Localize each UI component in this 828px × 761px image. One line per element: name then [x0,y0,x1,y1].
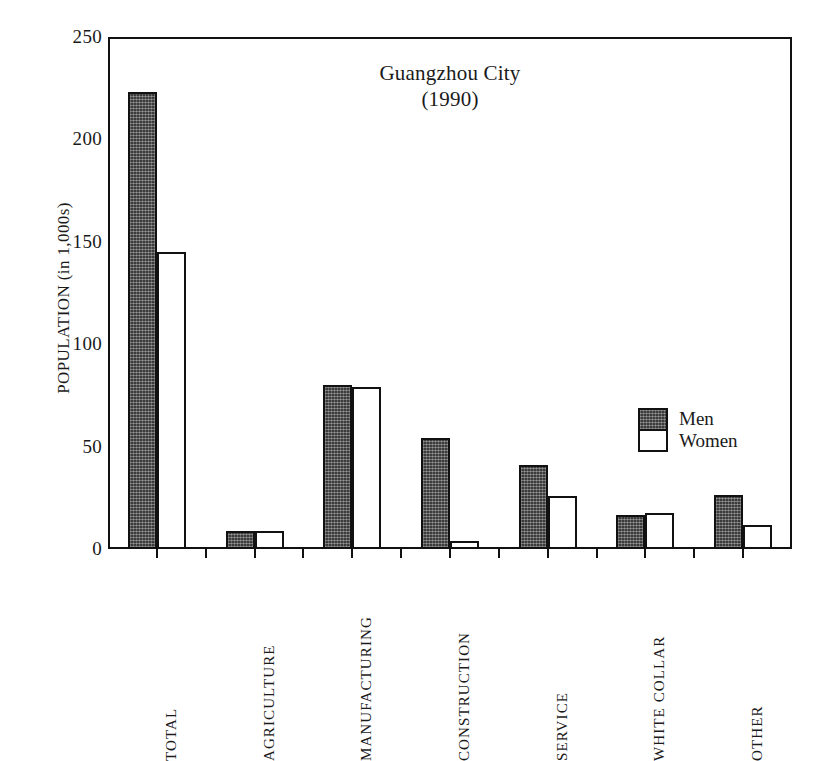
x-tick-mark [254,549,256,558]
bar-service-women [548,496,577,549]
x-axis-labels: TOTALAGRICULTUREMANUFACTURINGCONSTRUCTIO… [108,561,792,711]
legend-item-men: Men [638,408,738,430]
legend-label-men: Men [679,408,714,430]
x-axis-label-other: OTHER [749,561,766,761]
x-tick-mark-separator [498,549,500,558]
y-tick-label: 100 [56,334,102,353]
x-tick-mark [547,549,549,558]
bar-manufacturing-men [323,385,352,549]
y-tick-label: 250 [56,27,102,46]
x-axis-label-construction: CONSTRUCTION [456,561,473,761]
x-axis-label-total: TOTAL [163,561,180,761]
bar-white-collar-men [616,515,645,549]
bar-manufacturing-women [352,387,381,549]
bar-total-men [128,92,157,549]
bar-construction-men [421,438,450,549]
y-tick-label: 150 [56,232,102,251]
bar-service-men [519,465,548,549]
x-tick-mark [351,549,353,558]
x-tick-mark-separator [400,549,402,558]
bars-layer [108,37,792,549]
x-tick-mark-separator [596,549,598,558]
x-tick-mark-separator [693,549,695,558]
x-tick-mark [156,549,158,558]
y-tick-label: 200 [56,129,102,148]
bar-white-collar-women [645,513,674,549]
bar-agriculture-women [255,531,284,549]
x-tick-mark [449,549,451,558]
bar-other-women [743,525,772,549]
x-tick-mark [644,549,646,558]
y-tick-label: 50 [56,437,102,456]
legend-item-women: Women [638,430,738,452]
bar-construction-women [450,541,479,549]
x-axis-label-white-collar: WHITE COLLAR [651,561,668,761]
bar-other-men [714,495,743,549]
x-axis-ticks [108,549,792,561]
bar-agriculture-men [226,531,255,549]
x-axis-label-manufacturing: MANUFACTURING [358,561,375,761]
legend-label-women: Women [679,430,738,452]
x-axis-label-service: SERVICE [554,561,571,761]
legend-swatch-men-icon [638,408,668,430]
legend-swatch-women-icon [638,430,668,452]
y-tick-label: 0 [56,539,102,558]
y-axis-ticks: 050100150200250 [46,37,102,549]
bar-total-women [157,252,186,549]
x-tick-mark [742,549,744,558]
legend: Men Women [638,408,738,452]
x-tick-mark-separator [302,549,304,558]
x-axis-label-agriculture: AGRICULTURE [261,561,278,761]
x-tick-mark-separator [205,549,207,558]
